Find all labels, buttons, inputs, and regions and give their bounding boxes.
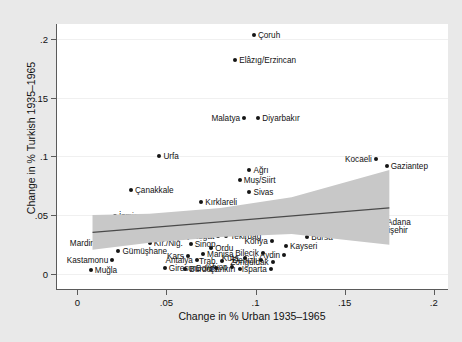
y-tick-label-4: .2 bbox=[0, 34, 48, 45]
x-tick-label-0: 0 bbox=[75, 297, 80, 308]
y-tick-label-2: .1 bbox=[0, 151, 48, 162]
x-tick-mark-4 bbox=[434, 290, 435, 295]
y-tick-mark-0 bbox=[51, 274, 56, 275]
y-tick-label-0: 0 bbox=[0, 268, 48, 279]
x-tick-mark-2 bbox=[256, 290, 257, 295]
plot-area: ÇoruhElâzıg/ErzincanMalatyaDiyarbakırUrf… bbox=[56, 24, 448, 290]
x-tick-label-1: .05 bbox=[160, 297, 173, 308]
x-tick-label-3: .15 bbox=[338, 297, 351, 308]
y-tick-mark-3 bbox=[51, 98, 56, 99]
x-axis-title: Change in % Urban 1935–1965 bbox=[56, 310, 448, 322]
y-tick-mark-2 bbox=[51, 156, 56, 157]
x-tick-label-4: .2 bbox=[430, 297, 438, 308]
y-tick-label-3: .15 bbox=[0, 92, 48, 103]
y-tick-mark-4 bbox=[51, 39, 56, 40]
y-tick-mark-1 bbox=[51, 215, 56, 216]
confidence-band bbox=[93, 170, 390, 250]
x-tick-mark-3 bbox=[345, 290, 346, 295]
fit-and-ci-overlay bbox=[57, 24, 448, 289]
y-tick-label-1: .05 bbox=[0, 210, 48, 221]
x-tick-mark-1 bbox=[166, 290, 167, 295]
y-axis-title: Change in % Turkish 1935–1965 bbox=[25, 0, 37, 279]
x-tick-mark-0 bbox=[77, 290, 78, 295]
scatter-plot-figure: ÇoruhElâzıg/ErzincanMalatyaDiyarbakırUrf… bbox=[0, 0, 462, 342]
x-tick-label-2: .1 bbox=[252, 297, 260, 308]
